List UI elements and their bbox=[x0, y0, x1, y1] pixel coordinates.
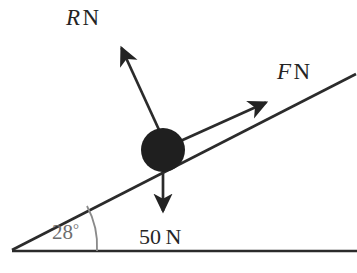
degree-sign-icon: ° bbox=[73, 221, 79, 237]
incline-angle-value: 28 bbox=[52, 220, 73, 244]
force-diagram: R N F N 50 N 28° bbox=[0, 0, 357, 273]
particle-ball bbox=[141, 128, 185, 172]
angle-arc bbox=[87, 206, 97, 251]
normal-force-arrow bbox=[122, 48, 161, 132]
normal-force-label: R N bbox=[66, 6, 99, 29]
weight-force-unit: N bbox=[165, 224, 181, 249]
weight-force-value: 50 bbox=[139, 224, 161, 249]
weight-force-label: 50 N bbox=[139, 226, 181, 248]
normal-force-unit: N bbox=[82, 5, 99, 30]
applied-force-arrow bbox=[176, 103, 266, 144]
incline-angle-label: 28° bbox=[52, 222, 79, 243]
applied-force-label: F N bbox=[277, 60, 310, 83]
normal-force-symbol: R bbox=[66, 5, 81, 30]
applied-force-symbol: F bbox=[277, 59, 292, 84]
applied-force-unit: N bbox=[293, 59, 310, 84]
